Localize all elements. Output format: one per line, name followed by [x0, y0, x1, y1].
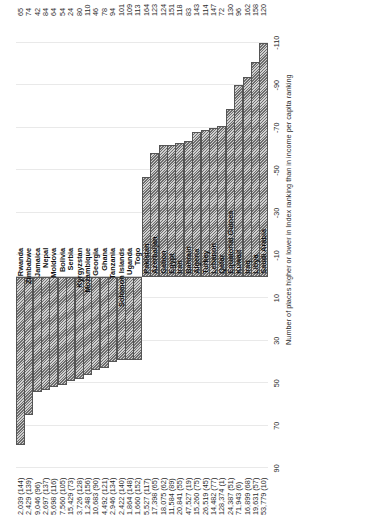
- x-tick-label: -50: [272, 165, 281, 176]
- gridline: [16, 84, 268, 85]
- x-tick-label: 10: [272, 294, 281, 302]
- bar: [133, 277, 142, 360]
- x-tick-label: -10: [272, 250, 281, 261]
- gridline: [16, 467, 268, 468]
- country-label: Saudi Arabia: [259, 229, 268, 274]
- rotated-figure-wrapper: 9070503010-10-30-50-70-90-110 RwandaZimb…: [0, 0, 368, 515]
- index-rank-label: 120: [259, 4, 268, 16]
- gridline: [16, 425, 268, 426]
- x-tick-label: 30: [272, 337, 281, 345]
- x-tick-label: 90: [272, 464, 281, 472]
- x-tick-label: 70: [272, 422, 281, 430]
- x-tick-label: -30: [272, 208, 281, 219]
- income-label: 53,779 (10): [259, 485, 268, 515]
- x-tick-label: 50: [272, 379, 281, 387]
- gridline: [16, 42, 268, 43]
- chart-figure: 9070503010-10-30-50-70-90-110 RwandaZimb…: [0, 0, 368, 515]
- x-tick-label: -110: [272, 36, 281, 50]
- x-axis-title: Number of places higher or lower in Inde…: [284, 74, 293, 345]
- x-tick-label: -90: [272, 80, 281, 91]
- x-tick-label: -70: [272, 123, 281, 134]
